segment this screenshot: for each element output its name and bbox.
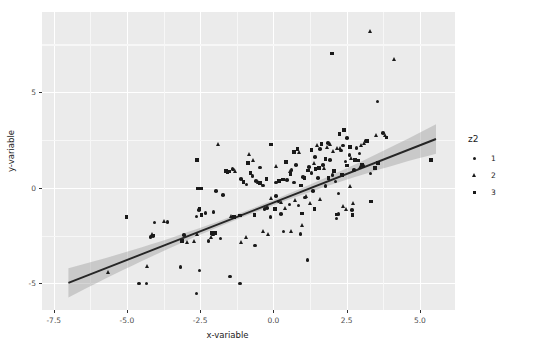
legend-items: 123: [466, 150, 546, 201]
data-point-1: [204, 211, 208, 215]
data-point-2: [374, 133, 378, 137]
data-point-3: [365, 139, 369, 143]
data-point-3: [327, 176, 331, 180]
legend: z2 123: [466, 134, 546, 201]
data-point-3: [200, 187, 204, 191]
data-point-3: [200, 213, 204, 217]
data-point-1: [212, 210, 216, 214]
x-tick-label: 0.0: [267, 316, 279, 325]
data-point-3: [373, 166, 377, 170]
data-point-2: [233, 169, 237, 173]
data-point-3: [313, 207, 317, 211]
data-point-2: [192, 239, 196, 243]
data-point-3: [345, 164, 349, 168]
data-point-2: [185, 240, 189, 244]
x-tick-label: 5.0: [414, 316, 426, 325]
x-tickmark: [127, 310, 128, 313]
data-point-3: [180, 239, 184, 243]
data-point-1: [328, 158, 332, 162]
legend-item-label: 3: [491, 188, 496, 197]
data-point-1: [311, 189, 315, 193]
data-point-2: [261, 229, 265, 233]
data-point-3: [284, 160, 288, 164]
data-point-3: [289, 172, 293, 176]
legend-item-1[interactable]: 1: [466, 150, 546, 167]
data-point-2: [247, 152, 251, 156]
data-point-2: [269, 196, 273, 200]
data-point-2: [351, 201, 355, 205]
data-point-2: [322, 166, 326, 170]
data-point-3: [348, 145, 352, 149]
x-tickmark: [54, 310, 55, 313]
data-point-3: [249, 171, 253, 175]
x-tick-label: 2.5: [341, 316, 353, 325]
data-point-3: [429, 158, 433, 162]
data-point-2: [304, 194, 308, 198]
x-tickmark: [200, 310, 201, 313]
data-point-3: [125, 215, 129, 219]
plot-panel: [42, 12, 455, 310]
data-point-2: [195, 232, 199, 236]
x-tickmark: [347, 310, 348, 313]
data-point-2: [216, 142, 220, 146]
data-point-2: [283, 206, 287, 210]
x-tick-label: -2.5: [193, 316, 208, 325]
data-point-3: [335, 213, 339, 217]
data-point-3: [369, 200, 373, 204]
data-point-1: [292, 181, 296, 185]
data-point-3: [317, 166, 321, 170]
data-point-2: [274, 164, 278, 168]
data-point-1: [166, 220, 170, 224]
x-tick-label: -7.5: [46, 316, 61, 325]
data-point-1: [345, 136, 349, 140]
y-tick-label: 0: [14, 183, 36, 192]
data-point-3: [320, 142, 324, 146]
data-point-3: [232, 215, 236, 219]
data-point-3: [330, 52, 334, 56]
data-point-3: [246, 161, 250, 165]
data-point-1: [214, 189, 218, 193]
data-point-2: [348, 184, 352, 188]
data-point-2: [368, 29, 372, 33]
data-point-3: [151, 234, 155, 238]
data-point-1: [179, 265, 183, 269]
data-point-3: [300, 212, 304, 216]
x-axis-label: x-variable: [0, 330, 455, 340]
y-tickmark: [39, 188, 42, 189]
data-point-2: [244, 235, 248, 239]
data-point-2: [338, 146, 342, 150]
data-point-3: [269, 143, 273, 147]
data-point-2: [145, 264, 149, 268]
data-point-1: [294, 163, 298, 167]
data-point-3: [224, 169, 228, 173]
data-point-2: [106, 270, 110, 274]
data-point-1: [306, 258, 310, 262]
data-point-2: [392, 57, 396, 61]
data-point-3: [338, 132, 342, 136]
legend-item-2[interactable]: 2: [466, 167, 546, 184]
data-point-1: [274, 194, 278, 198]
data-point-1: [221, 193, 225, 197]
data-point-1: [341, 144, 345, 148]
data-point-1: [350, 208, 354, 212]
data-point-2: [359, 143, 363, 147]
data-point-3: [303, 176, 307, 180]
data-point-1: [313, 155, 317, 159]
data-point-2: [289, 229, 293, 233]
data-point-2: [300, 223, 304, 227]
data-point-2: [279, 200, 283, 204]
y-tickmark: [39, 92, 42, 93]
data-point-2: [239, 240, 243, 244]
data-point-3: [253, 213, 257, 217]
data-point-2: [251, 158, 255, 162]
data-point-1: [316, 176, 320, 180]
data-point-3: [351, 213, 355, 217]
data-point-3: [213, 231, 217, 235]
square-icon: [466, 184, 483, 201]
data-point-3: [242, 180, 246, 184]
legend-item-3[interactable]: 3: [466, 184, 546, 201]
data-point-3: [332, 169, 336, 173]
x-tick-label: -5.0: [120, 316, 135, 325]
legend-title: z2: [468, 134, 546, 144]
data-point-2: [266, 232, 270, 236]
